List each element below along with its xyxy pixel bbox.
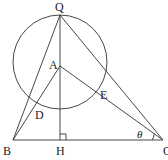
label-e: E [100, 88, 107, 102]
label-d: D [35, 108, 44, 122]
label-h: H [56, 144, 65, 158]
right-angle-mark [60, 134, 66, 140]
geometry-diagram: Q A B H C D E θ [0, 0, 168, 160]
label-q: Q [55, 0, 64, 14]
label-c: C [163, 144, 168, 158]
label-a: A [49, 58, 58, 72]
angle-arc [152, 134, 154, 141]
label-b: B [3, 144, 11, 158]
label-theta: θ [137, 128, 143, 140]
